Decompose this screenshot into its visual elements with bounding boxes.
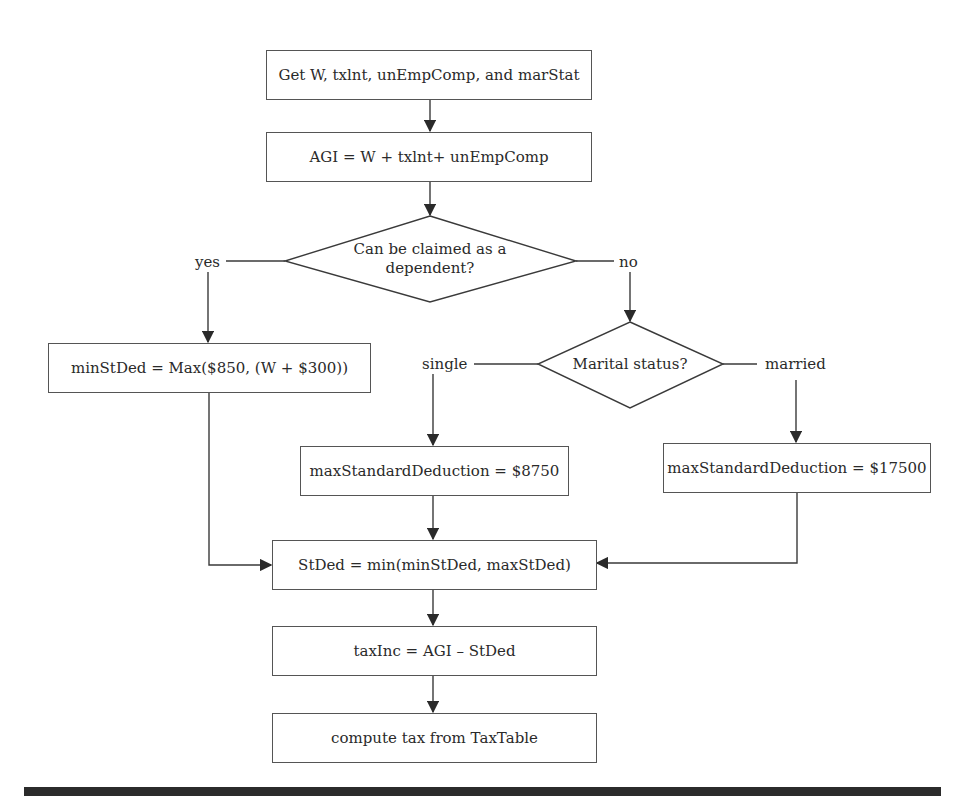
no-label: no: [619, 253, 638, 271]
input-text: Get W, txlnt, unEmpComp, and marStat: [278, 66, 579, 84]
max-single-box: maxStandardDeduction = $8750: [300, 446, 569, 496]
tax-inc-text: taxInc = AGI – StDed: [353, 642, 515, 660]
marital-decision-text: Marital status?: [555, 355, 705, 374]
married-label: married: [765, 355, 826, 373]
compute-tax-box: compute tax from TaxTable: [272, 713, 597, 763]
min-std-ded-box: minStDed = Max($850, (W + $300)): [48, 343, 371, 393]
max-married-text: maxStandardDeduction = $17500: [667, 459, 926, 477]
bottom-rule: [24, 787, 941, 796]
yes-label: yes: [195, 253, 220, 271]
dependent-decision-line1: Can be claimed as a: [330, 240, 530, 259]
arrow-minstded-to-stded: [209, 392, 271, 565]
flowchart-canvas: Get W, txlnt, unEmpComp, and marStat AGI…: [0, 0, 973, 810]
agi-box: AGI = W + txlnt+ unEmpComp: [266, 132, 592, 182]
arrow-married-max-to-stded: [597, 492, 797, 563]
min-std-ded-text: minStDed = Max($850, (W + $300)): [71, 359, 348, 377]
tax-inc-box: taxInc = AGI – StDed: [272, 626, 597, 676]
single-label: single: [422, 355, 467, 373]
compute-tax-text: compute tax from TaxTable: [331, 729, 538, 747]
dependent-decision-line2: dependent?: [330, 259, 530, 278]
agi-text: AGI = W + txlnt+ unEmpComp: [309, 148, 548, 166]
max-married-box: maxStandardDeduction = $17500: [663, 443, 931, 493]
input-box: Get W, txlnt, unEmpComp, and marStat: [266, 50, 592, 100]
connector-lines: [0, 0, 973, 810]
std-ded-box: StDed = min(minStDed, maxStDed): [272, 540, 597, 590]
std-ded-text: StDed = min(minStDed, maxStDed): [298, 556, 571, 574]
dependent-decision-text: Can be claimed as a dependent?: [330, 240, 530, 278]
max-single-text: maxStandardDeduction = $8750: [310, 462, 560, 480]
